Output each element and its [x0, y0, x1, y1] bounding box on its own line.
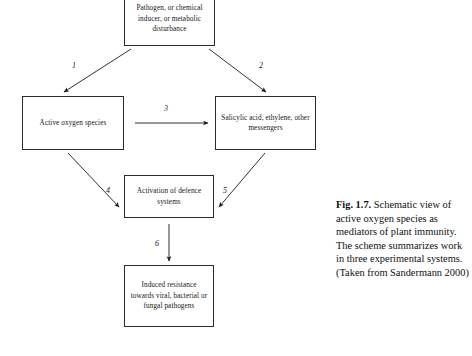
node-messengers: Salicylic acid, ethylene, other messenge… [215, 96, 316, 150]
edge-label-1: 1 [72, 62, 76, 70]
edge-label-3: 3 [164, 105, 168, 113]
figure-number: Fig. 1.7. [336, 199, 371, 210]
node-induced-resistance: Induced resistance towards viral, bacter… [124, 265, 214, 327]
edge-label-6: 6 [155, 240, 159, 248]
arrow-4-aos-to-defence [68, 153, 119, 207]
node-trigger: Pathogen, or chemical inducer, or metabo… [124, 0, 215, 46]
edge-label-5: 5 [223, 187, 227, 195]
node-defence-activation: Activation of defence systems [124, 175, 214, 218]
arrow-2-trigger-to-messengers [209, 49, 266, 92]
edge-label-4: 4 [106, 187, 110, 195]
figure-page: Pathogen, or chemical inducer, or metabo… [0, 0, 472, 356]
figure-caption-text: Schematic view of active oxygen species … [336, 199, 469, 278]
figure-caption: Fig. 1.7. Schematic view of active oxyge… [336, 198, 470, 279]
node-active-oxygen-species: Active oxygen species [22, 96, 124, 150]
node-trigger-label: Pathogen, or chemical inducer, or metabo… [129, 3, 210, 34]
node-messengers-label: Salicylic acid, ethylene, other messenge… [220, 113, 311, 134]
edge-label-2: 2 [259, 62, 263, 70]
arrow-5-messengers-to-defence [219, 153, 265, 207]
node-active-oxygen-species-label: Active oxygen species [27, 118, 119, 128]
diagram-canvas: Pathogen, or chemical inducer, or metabo… [0, 0, 340, 356]
node-defence-activation-label: Activation of defence systems [129, 186, 209, 207]
node-induced-resistance-label: Induced resistance towards viral, bacter… [129, 280, 209, 311]
arrow-1-trigger-to-aos [64, 49, 131, 92]
